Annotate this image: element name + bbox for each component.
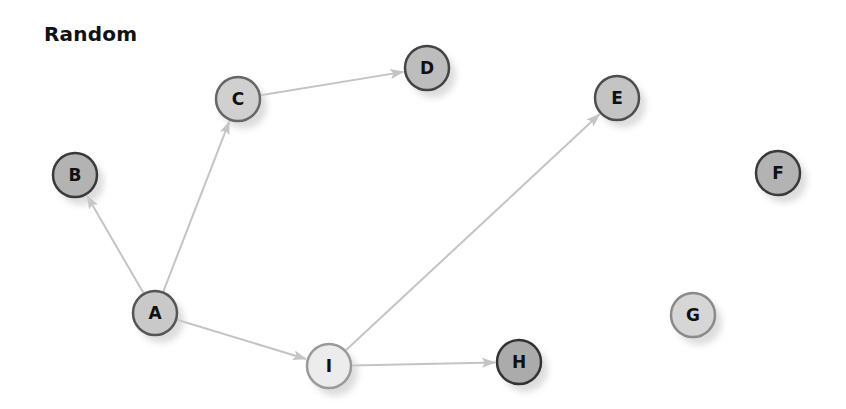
node-b[interactable]: B (53, 153, 104, 205)
node-label: D (420, 58, 434, 78)
node-label: G (686, 305, 700, 325)
node-d[interactable]: D (405, 46, 456, 98)
node-label: B (69, 165, 82, 185)
node-label: C (232, 89, 244, 109)
nodes-layer: ABCDEFGHI (53, 46, 807, 396)
node-label: F (772, 163, 784, 183)
node-e[interactable]: E (595, 76, 646, 128)
node-label: E (611, 88, 623, 108)
edge-i-e (346, 114, 600, 350)
node-label: I (326, 356, 332, 376)
directed-graph: ABCDEFGHI (0, 0, 846, 409)
edge-a-b (87, 196, 143, 293)
node-h[interactable]: H (497, 340, 548, 392)
edge-c-d (261, 72, 404, 95)
edge-i-h (352, 363, 495, 366)
node-label: A (148, 303, 162, 323)
node-i[interactable]: I (307, 344, 358, 396)
node-label: H (512, 352, 526, 372)
edge-a-i (177, 320, 306, 359)
node-a[interactable]: A (133, 291, 184, 343)
node-f[interactable]: F (756, 151, 807, 203)
edge-a-c (163, 121, 229, 291)
node-g[interactable]: G (671, 293, 722, 345)
node-c[interactable]: C (216, 77, 267, 129)
